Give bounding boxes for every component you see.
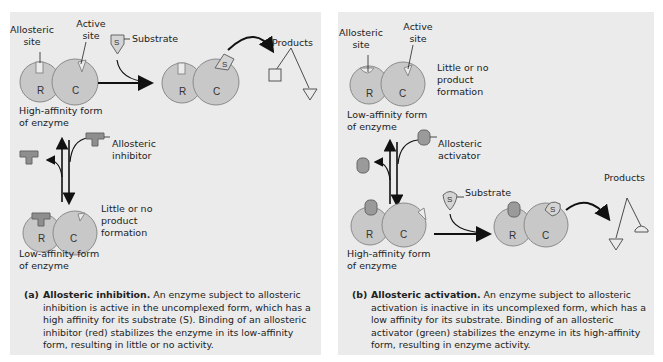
enzyme-low-affinity-icon: R C	[350, 62, 425, 106]
svg-text:R: R	[38, 233, 45, 244]
panel-allosteric-inhibition: R C S S R C	[10, 12, 321, 355]
svg-text:R: R	[509, 230, 516, 241]
caption-tag: (b)	[352, 289, 367, 302]
allosteric-inhibitor-label: Allosteric inhibitor	[112, 138, 156, 162]
active-site-label: Active site	[76, 18, 106, 42]
products-icon	[269, 48, 317, 100]
active-site-label: Active site	[403, 21, 433, 45]
svg-text:C: C	[72, 85, 79, 96]
enzyme-substrate-complex-icon: S R C	[162, 54, 239, 105]
caption-b: (b) Allosteric activation. An enzyme sub…	[352, 289, 650, 352]
svg-text:R: R	[366, 229, 373, 240]
enzyme-high-affinity-icon: R C	[20, 59, 98, 105]
svg-text:C: C	[400, 229, 407, 240]
svg-text:C: C	[542, 230, 549, 241]
panel-allosteric-activation: R C R C S	[338, 12, 654, 355]
svg-text:C: C	[70, 233, 77, 244]
svg-text:S: S	[447, 195, 452, 204]
svg-text:R: R	[37, 85, 44, 96]
products-label: Products	[604, 172, 645, 184]
svg-text:S: S	[550, 205, 555, 214]
low-affinity-label: Low-affinity form of enzyme	[347, 109, 427, 133]
little-or-no-product-label: Little or no product formation	[437, 62, 488, 98]
caption-title: Allosteric inhibition.	[43, 289, 150, 300]
low-affinity-label: Low-affinity form of enzyme	[19, 248, 99, 272]
allosteric-activator-label: Allosteric activator	[438, 138, 482, 162]
released-inhibitor-icon	[20, 151, 38, 164]
allosteric-site-label: Allosteric site	[338, 27, 384, 51]
svg-text:S: S	[114, 38, 119, 47]
svg-text:S: S	[222, 60, 227, 69]
allosteric-inhibitor-icon	[86, 133, 110, 146]
substrate-icon: S	[443, 192, 464, 211]
substrate-icon: S	[111, 35, 130, 54]
svg-text:R: R	[179, 86, 186, 97]
substrate-label: Substrate	[132, 33, 178, 45]
little-or-no-product-label: Little or no product formation	[101, 203, 152, 239]
enzyme-substrate-complex-icon: S R C	[494, 202, 568, 247]
released-activator-icon	[357, 158, 369, 173]
caption-title: Allosteric activation.	[371, 289, 481, 300]
caption-tag: (a)	[24, 289, 39, 302]
high-affinity-label: High-affinity form of enzyme	[19, 105, 102, 129]
equilibrium-arrows-icon	[376, 140, 418, 204]
svg-text:C: C	[399, 88, 406, 99]
enzyme-high-affinity-icon: R C	[351, 200, 426, 247]
equilibrium-arrows-icon	[48, 138, 88, 202]
products-icon	[609, 198, 648, 250]
allosteric-site-label: Allosteric site	[10, 24, 54, 48]
high-affinity-label: High-affinity form of enzyme	[347, 248, 430, 272]
products-label: Products	[272, 37, 313, 49]
svg-text:R: R	[366, 88, 373, 99]
substrate-label: Substrate	[465, 187, 511, 199]
svg-text:C: C	[213, 86, 220, 97]
caption-a: (a) Allosteric inhibition. An enzyme sub…	[24, 289, 316, 352]
